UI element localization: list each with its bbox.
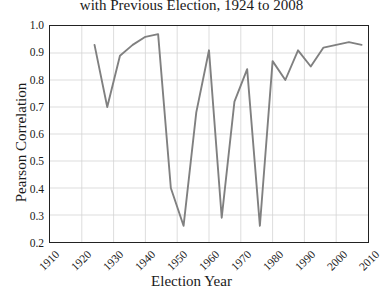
y-tick-label: 0.2 <box>4 237 44 249</box>
plot-area <box>49 25 369 243</box>
x-axis-title: Election Year <box>0 273 383 290</box>
chart-title: with Previous Election, 1924 to 2008 <box>0 0 383 14</box>
chart-figure: with Previous Election, 1924 to 2008 0.2… <box>0 0 383 294</box>
y-axis-title: Pearson Correlation <box>13 53 30 233</box>
y-tick-label: 1.0 <box>4 19 44 31</box>
data-series-line <box>50 26 368 242</box>
